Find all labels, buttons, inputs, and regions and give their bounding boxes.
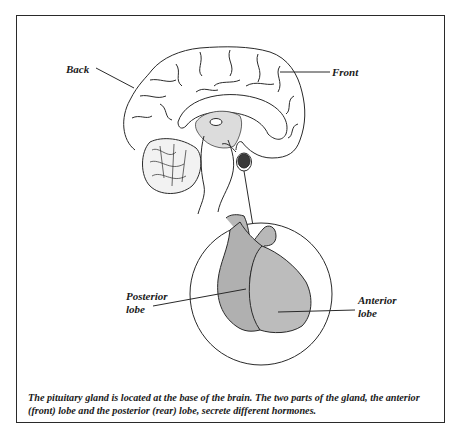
label-anterior-lobe-line1: Anterior [358,294,397,306]
label-anterior-lobe-line2: lobe [358,307,377,319]
label-back: Back [66,63,89,75]
label-front: Front [332,66,358,78]
pituitary-small [238,154,250,168]
label-posterior-lobe-line1: Posterior [126,290,168,302]
label-posterior-lobe-line2: lobe [126,303,145,315]
figure-caption: The pituitary gland is located at the ba… [28,391,428,417]
